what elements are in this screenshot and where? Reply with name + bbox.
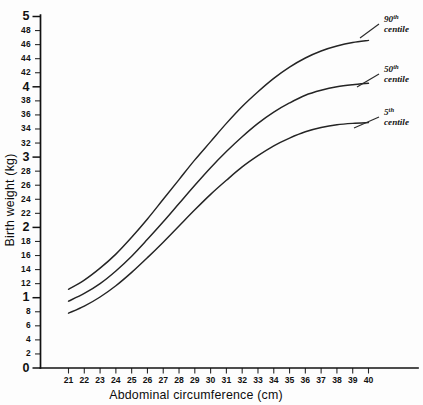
centile-curve-50 bbox=[69, 83, 369, 301]
x-axis-title: Abdominal circumference (cm) bbox=[109, 388, 283, 402]
x-tick-label: 32 bbox=[237, 375, 247, 385]
x-tick-label: 28 bbox=[174, 375, 184, 385]
x-tick-label: 27 bbox=[158, 375, 168, 385]
x-tick-label: 25 bbox=[127, 375, 137, 385]
y-tick-label: 44 bbox=[21, 53, 31, 63]
y-tick-label: 3 bbox=[23, 150, 30, 164]
y-tick-label: 48 bbox=[21, 25, 31, 35]
y-tick-label: 38 bbox=[21, 95, 31, 105]
y-tick-label: 42 bbox=[21, 67, 31, 77]
x-tick-label: 36 bbox=[301, 375, 311, 385]
x-axis-tick-labels: 2122232425262728293031323334353637383940 bbox=[64, 375, 374, 385]
centile-label-line1: 50th bbox=[384, 63, 399, 74]
x-tick-label: 37 bbox=[316, 375, 326, 385]
y-tick-label: 6 bbox=[26, 320, 31, 330]
centile-curves bbox=[69, 24, 380, 313]
y-tick-label: 14 bbox=[21, 264, 31, 274]
centile-leader-90 bbox=[360, 24, 379, 38]
y-tick-label: 32 bbox=[21, 138, 31, 148]
centile-label-line1: 90th bbox=[384, 13, 399, 24]
y-axis-title: Birth weight (kg) bbox=[3, 154, 17, 247]
centile-label-line2: centile bbox=[384, 24, 409, 34]
y-tick-label: 16 bbox=[21, 250, 31, 260]
centile-curve-5 bbox=[69, 123, 369, 314]
x-tick-label: 23 bbox=[95, 375, 105, 385]
y-tick-label: 2 bbox=[23, 220, 30, 234]
x-tick-label: 33 bbox=[253, 375, 263, 385]
y-tick-label: 4 bbox=[23, 80, 30, 94]
y-tick-label: 8 bbox=[26, 306, 31, 316]
y-tick-label: 28 bbox=[21, 166, 31, 176]
birth-weight-centile-chart: 0246811214161822224262833234363844244464… bbox=[0, 0, 423, 405]
y-tick-label: 5 bbox=[23, 9, 30, 23]
y-tick-label: 26 bbox=[21, 180, 31, 190]
x-tick-label: 29 bbox=[190, 375, 200, 385]
x-tick-label: 40 bbox=[364, 375, 374, 385]
y-tick-label: 12 bbox=[21, 278, 31, 288]
x-tick-label: 34 bbox=[269, 375, 279, 385]
y-tick-label: 2 bbox=[26, 348, 31, 358]
x-tick-label: 26 bbox=[143, 375, 153, 385]
x-tick-label: 30 bbox=[206, 375, 216, 385]
y-tick-label: 1 bbox=[23, 290, 30, 304]
x-tick-label: 38 bbox=[332, 375, 342, 385]
y-axis-tick-labels: 0246811214161822224262833234363844244464… bbox=[21, 9, 31, 375]
x-tick-label: 22 bbox=[80, 375, 90, 385]
centile-label-90: 90thcentile bbox=[384, 13, 409, 34]
y-tick-label: 0 bbox=[23, 361, 30, 375]
centile-label-line1: 5th bbox=[384, 106, 394, 117]
x-tick-label: 39 bbox=[348, 375, 358, 385]
y-tick-label: 22 bbox=[21, 208, 31, 218]
x-tick-label: 31 bbox=[222, 375, 232, 385]
centile-series-labels: 90thcentile50thcentile5thcentile bbox=[384, 13, 409, 127]
y-axis-ticks bbox=[33, 17, 41, 369]
y-tick-label: 36 bbox=[21, 109, 31, 119]
y-tick-label: 18 bbox=[21, 236, 31, 246]
centile-curve-90 bbox=[69, 40, 369, 289]
centile-label-line2: centile bbox=[384, 117, 409, 127]
centile-label-5: 5thcentile bbox=[384, 106, 409, 127]
y-tick-label: 24 bbox=[21, 194, 31, 204]
centile-leader-50 bbox=[357, 74, 379, 87]
y-tick-label: 46 bbox=[21, 39, 31, 49]
x-tick-label: 21 bbox=[64, 375, 74, 385]
chart-page: 0246811214161822224262833234363844244464… bbox=[0, 0, 423, 405]
y-tick-label: 4 bbox=[26, 334, 31, 344]
y-tick-label: 34 bbox=[21, 123, 31, 133]
centile-label-line2: centile bbox=[384, 74, 409, 84]
centile-label-50: 50thcentile bbox=[384, 63, 409, 84]
x-tick-label: 24 bbox=[111, 375, 121, 385]
x-tick-label: 35 bbox=[285, 375, 295, 385]
